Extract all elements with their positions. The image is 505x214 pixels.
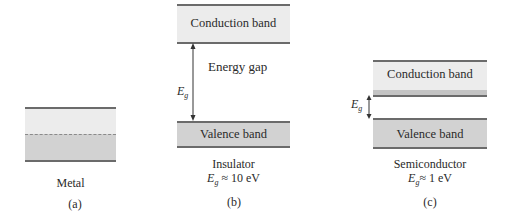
insulator-gap-symbol: Eg bbox=[177, 84, 188, 100]
panel-label-a: (a) bbox=[55, 197, 95, 212]
semiconductor-gap-value: Eg≈ 1 eV bbox=[373, 171, 487, 187]
metal-upper-band bbox=[25, 109, 116, 134]
insulator-valence-top-edge bbox=[177, 121, 290, 123]
energy-gap-label: Energy gap bbox=[208, 59, 267, 75]
semiconductor-conduction-band-label: Conduction band bbox=[373, 67, 487, 82]
semiconductor-valence-top-edge bbox=[373, 118, 487, 120]
semiconductor-conduction-bottom-edge bbox=[373, 95, 487, 97]
insulator-conduction-band-label: Conduction band bbox=[177, 16, 290, 31]
metal-top-edge bbox=[25, 107, 116, 109]
metal-fermi-level-dashed-line bbox=[25, 134, 116, 135]
metal-filled-band bbox=[25, 134, 116, 161]
insulator-valence-band-label: Valence band bbox=[177, 127, 290, 142]
semiconductor-caption: Semiconductor bbox=[373, 157, 487, 172]
insulator-conduction-top-edge bbox=[177, 4, 290, 6]
semiconductor-valence-band-label: Valence band bbox=[373, 127, 487, 142]
semiconductor-valence-bottom-edge bbox=[373, 147, 487, 149]
panel-label-b: (b) bbox=[214, 195, 254, 210]
semiconductor-gap-symbol: Eg bbox=[351, 97, 362, 113]
metal-caption: Metal bbox=[25, 176, 116, 191]
semiconductor-gap-double-arrow-icon bbox=[364, 95, 374, 119]
insulator-caption: Insulator bbox=[177, 157, 290, 172]
panel-label-c: (c) bbox=[410, 195, 450, 210]
metal-bottom-edge bbox=[25, 160, 116, 162]
energy-gap-double-arrow-icon bbox=[187, 43, 199, 121]
insulator-gap-value: Eg ≈ 10 eV bbox=[177, 171, 290, 187]
semiconductor-conduction-top-edge bbox=[373, 60, 487, 62]
insulator-valence-bottom-edge bbox=[177, 146, 290, 148]
